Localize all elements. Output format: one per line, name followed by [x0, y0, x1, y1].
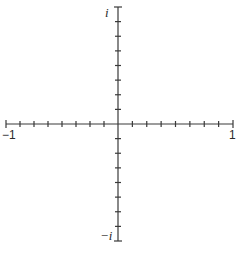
real-max-label: 1 — [229, 128, 236, 142]
imag-max-label: i — [105, 5, 109, 20]
real-axis — [6, 120, 233, 128]
complex-plane-diagram: −1 1 i −i — [0, 0, 239, 256]
imag-min-label: −i — [100, 228, 113, 243]
real-min-label: −1 — [2, 128, 16, 142]
